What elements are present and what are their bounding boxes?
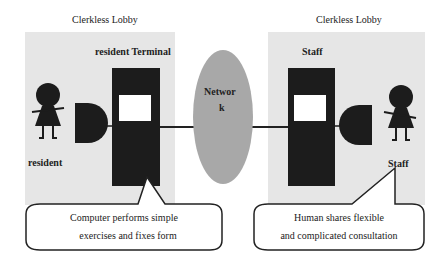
right-lobby-title: Clerkless Lobby	[316, 14, 382, 25]
right-terminal-screen	[294, 95, 326, 121]
network-label-line1: Networ	[204, 86, 236, 97]
right-callout-line1: Human shares flexible	[254, 209, 424, 227]
left-callout-line2: exercises and fixes form	[26, 227, 222, 245]
left-interface-icon	[75, 103, 108, 143]
staff-person-icon	[384, 85, 416, 140]
network-ellipse	[193, 50, 253, 184]
left-terminal-screen	[119, 95, 151, 121]
resident-label: resident	[28, 157, 62, 168]
right-callout-text: Human shares flexible and complicated co…	[254, 209, 424, 245]
right-interface-icon	[339, 105, 372, 145]
resident-person-icon	[32, 83, 64, 138]
left-lobby-title: Clerkless Lobby	[72, 14, 138, 25]
left-callout-text: Computer performs simple exercises and f…	[26, 209, 222, 245]
resident-terminal-label: resident Terminal	[95, 46, 171, 57]
left-terminal	[112, 68, 160, 186]
staff-terminal-label: Staff	[302, 46, 323, 57]
right-terminal	[288, 68, 335, 186]
left-callout-line1: Computer performs simple	[26, 209, 222, 227]
staff-label: Staff	[388, 158, 409, 169]
network-label-line2: k	[219, 102, 225, 113]
right-callout-line2: and complicated consultation	[254, 227, 424, 245]
